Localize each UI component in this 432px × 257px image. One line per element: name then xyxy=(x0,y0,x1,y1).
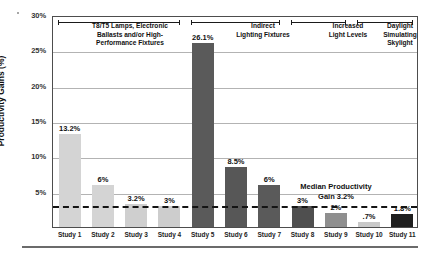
bar-study-5[interactable] xyxy=(192,43,214,227)
bar-group: 13.2% xyxy=(53,17,86,227)
category-label-3: Increased Light Levels xyxy=(318,22,378,39)
plot-inner: 13.2%6%3.2%3%26.1%8.5%6%3%2%.7%1.8%Media… xyxy=(53,17,417,227)
x-tick-label-study-1: Study 1 xyxy=(58,231,81,238)
bracket-cap xyxy=(357,20,358,25)
bar-value-label: 3% xyxy=(164,196,175,205)
bracket-cap xyxy=(191,20,192,25)
median-label-line2: Gain 3.2% xyxy=(271,192,401,202)
bracket-cap xyxy=(58,20,59,25)
bracket-4 xyxy=(357,22,412,23)
x-tick-label-study-10: Study 10 xyxy=(356,231,383,238)
bracket-cap xyxy=(179,20,180,25)
category-label-4-line2: Simulating xyxy=(378,31,422,40)
bracket-cap xyxy=(345,20,346,25)
y-tick-label-20: 20% xyxy=(6,82,46,91)
bar-value-label: 6% xyxy=(97,175,108,184)
median-reference-label: Median ProductivityGain 3.2% xyxy=(271,182,401,201)
category-label-1-line2: Ballasts and/or High- xyxy=(60,31,200,40)
bar-study-9[interactable] xyxy=(325,213,347,227)
footer-divider xyxy=(22,246,418,248)
x-tick-label-study-7: Study 7 xyxy=(258,231,281,238)
category-label-2-line2: Lighting Fixtures xyxy=(222,31,304,40)
y-tick-label-10: 10% xyxy=(6,152,46,161)
x-tick-label-study-9: Study 9 xyxy=(324,231,347,238)
y-tick-label-5: 5% xyxy=(6,188,46,197)
bar-group: 26.1% xyxy=(186,17,219,227)
bar-study-10[interactable] xyxy=(358,222,380,227)
y-tick-label-15: 15% xyxy=(6,117,46,126)
bar-group: 3% xyxy=(153,17,186,227)
bar-study-4[interactable] xyxy=(158,206,180,227)
y-tick-label-30: 30% xyxy=(6,11,46,20)
bracket-cap xyxy=(291,20,292,25)
bar-study-6[interactable] xyxy=(225,167,247,227)
chart-figure: Productivity Gains (%) 30%25%20%15%10%5%… xyxy=(0,0,432,257)
bar-group: 6% xyxy=(86,17,119,227)
category-label-3-line2: Light Levels xyxy=(318,31,378,40)
x-tick-label-study-6: Study 6 xyxy=(224,231,247,238)
category-label-4-line3: Skylight xyxy=(378,39,422,48)
bar-value-label: 13.2% xyxy=(59,124,80,133)
x-tick-label-study-4: Study 4 xyxy=(158,231,181,238)
median-reference-line xyxy=(53,206,417,208)
bracket-cap xyxy=(279,20,280,25)
category-label-4: Daylight Simulating Skylight xyxy=(378,22,422,48)
category-label-1-line3: Performance Fixtures xyxy=(60,39,200,48)
bar-study-8[interactable] xyxy=(292,206,314,227)
bracket-2 xyxy=(191,22,279,23)
x-tick-label-study-5: Study 5 xyxy=(191,231,214,238)
x-tick-label-study-8: Study 8 xyxy=(291,231,314,238)
bar-value-label: .7% xyxy=(363,212,376,221)
plot-area: 13.2%6%3.2%3%26.1%8.5%6%3%2%.7%1.8%Media… xyxy=(52,16,418,228)
median-label-line1: Median Productivity xyxy=(271,182,401,192)
bar-value-label: 3.2% xyxy=(128,194,145,203)
y-tick-label-25: 25% xyxy=(6,46,46,55)
bar-study-11[interactable] xyxy=(391,214,413,227)
bar-value-label: 8.5% xyxy=(227,157,244,166)
x-tick-label-study-2: Study 2 xyxy=(91,231,114,238)
category-label-1: T8/T5 Lamps, Electronic Ballasts and/or … xyxy=(60,22,200,48)
x-tick-label-study-3: Study 3 xyxy=(124,231,147,238)
bar-group: 3.2% xyxy=(120,17,153,227)
bracket-3 xyxy=(291,22,346,23)
category-label-4-line1: Daylight xyxy=(378,22,422,31)
bar-group: 8.5% xyxy=(219,17,252,227)
bracket-cap xyxy=(412,20,413,25)
bracket-1 xyxy=(58,22,179,23)
category-label-3-line1: Increased xyxy=(318,22,378,31)
x-tick-label-study-11: Study 11 xyxy=(389,231,416,238)
bar-study-1[interactable] xyxy=(59,134,81,227)
